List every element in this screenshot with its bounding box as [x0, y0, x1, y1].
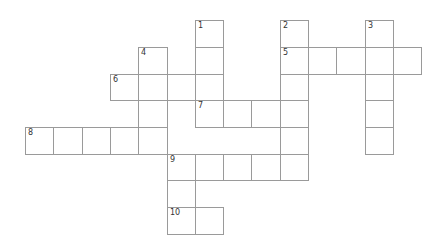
- letter-input[interactable]: [252, 155, 280, 180]
- crossword-cell[interactable]: [308, 47, 337, 75]
- letter-input[interactable]: [281, 75, 308, 100]
- crossword-cell[interactable]: 1: [195, 20, 224, 48]
- crossword-cell[interactable]: 9: [167, 154, 196, 181]
- crossword-cell[interactable]: [223, 154, 252, 181]
- letter-input[interactable]: [366, 128, 393, 154]
- letter-input[interactable]: [196, 48, 223, 74]
- letter-input[interactable]: [111, 75, 138, 100]
- crossword-cell[interactable]: [195, 47, 224, 75]
- letter-input[interactable]: [281, 21, 308, 47]
- crossword-cell[interactable]: 7: [195, 100, 224, 128]
- letter-input[interactable]: [168, 208, 195, 234]
- letter-input[interactable]: [139, 48, 167, 74]
- crossword-cell[interactable]: [195, 154, 224, 181]
- crossword-cell[interactable]: [280, 100, 309, 128]
- letter-input[interactable]: [111, 128, 138, 154]
- letter-input[interactable]: [83, 128, 110, 154]
- crossword-cell[interactable]: [280, 127, 309, 155]
- crossword-cell[interactable]: [195, 207, 224, 235]
- letter-input[interactable]: [366, 101, 393, 127]
- crossword-cell[interactable]: [251, 154, 281, 181]
- crossword-grid: 56789101234: [0, 0, 447, 246]
- crossword-cell[interactable]: [167, 74, 196, 101]
- letter-input[interactable]: [139, 128, 167, 154]
- crossword-cell[interactable]: [280, 154, 309, 181]
- crossword-cell[interactable]: [138, 74, 168, 101]
- crossword-cell[interactable]: [365, 74, 394, 101]
- crossword-cell[interactable]: [393, 47, 422, 75]
- letter-input[interactable]: [366, 48, 393, 74]
- letter-input[interactable]: [196, 21, 223, 47]
- letter-input[interactable]: [26, 128, 53, 154]
- letter-input[interactable]: [281, 101, 308, 127]
- letter-input[interactable]: [281, 155, 308, 180]
- crossword-cell[interactable]: [365, 100, 394, 128]
- letter-input[interactable]: [196, 75, 223, 100]
- crossword-cell[interactable]: [138, 127, 168, 155]
- crossword-cell[interactable]: 10: [167, 207, 196, 235]
- crossword-cell[interactable]: [195, 74, 224, 101]
- letter-input[interactable]: [139, 101, 167, 127]
- letter-input[interactable]: [196, 101, 223, 127]
- letter-input[interactable]: [281, 128, 308, 154]
- crossword-cell[interactable]: 3: [365, 20, 394, 48]
- letter-input[interactable]: [224, 101, 251, 127]
- letter-input[interactable]: [196, 208, 223, 234]
- letter-input[interactable]: [168, 155, 195, 180]
- crossword-cell[interactable]: 6: [110, 74, 139, 101]
- crossword-cell[interactable]: 4: [138, 47, 168, 75]
- crossword-cell[interactable]: [251, 100, 281, 128]
- letter-input[interactable]: [252, 101, 280, 127]
- letter-input[interactable]: [366, 75, 393, 100]
- crossword-cell[interactable]: [336, 47, 366, 75]
- letter-input[interactable]: [281, 48, 308, 74]
- letter-input[interactable]: [309, 48, 336, 74]
- crossword-cell[interactable]: [82, 127, 111, 155]
- crossword-cell[interactable]: [110, 127, 139, 155]
- letter-input[interactable]: [139, 75, 167, 100]
- crossword-cell[interactable]: 8: [25, 127, 54, 155]
- letter-input[interactable]: [337, 48, 365, 74]
- crossword-cell[interactable]: [365, 47, 394, 75]
- letter-input[interactable]: [366, 21, 393, 47]
- crossword-cell[interactable]: [280, 74, 309, 101]
- crossword-cell[interactable]: 5: [280, 47, 309, 75]
- crossword-cell[interactable]: 2: [280, 20, 309, 48]
- letter-input[interactable]: [394, 48, 421, 74]
- letter-input[interactable]: [196, 155, 223, 180]
- crossword-cell[interactable]: [53, 127, 83, 155]
- letter-input[interactable]: [224, 155, 251, 180]
- crossword-cell[interactable]: [223, 100, 252, 128]
- crossword-cell[interactable]: [167, 180, 196, 208]
- crossword-cell[interactable]: [365, 127, 394, 155]
- letter-input[interactable]: [54, 128, 82, 154]
- letter-input[interactable]: [168, 181, 195, 207]
- letter-input[interactable]: [168, 75, 195, 100]
- crossword-cell[interactable]: [138, 100, 168, 128]
